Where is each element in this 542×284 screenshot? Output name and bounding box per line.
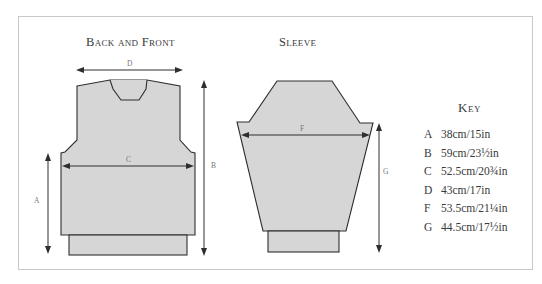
key-title: Key [458, 100, 534, 116]
d-arrowhead-right [175, 67, 183, 73]
key-row: F 53.5cm/21¼in [424, 199, 534, 218]
b-label: B [211, 161, 216, 170]
b-arrowhead-top [201, 80, 207, 88]
key-letter: F [424, 199, 441, 218]
back-front-title: Back and Front [86, 35, 175, 49]
d-label: D [127, 59, 133, 68]
d-arrowhead-left [76, 67, 84, 73]
key-value: 53.5cm/21¼in [441, 199, 507, 218]
sleeve-title: Sleeve [279, 35, 316, 49]
key-row: G 44.5cm/17½in [424, 218, 534, 237]
g-label: G [383, 167, 389, 176]
key-letter: C [424, 162, 441, 181]
key-value: 52.5cm/20¾in [441, 162, 507, 181]
c-label: C [126, 155, 131, 164]
measurement-key: Key A 38cm/15in B 59cm/23½in C 52.5cm/20… [424, 100, 534, 237]
back-front-ribbing [69, 235, 187, 255]
b-arrowhead-bottom [201, 248, 207, 256]
key-value: 44.5cm/17½in [441, 218, 507, 237]
key-letter: D [424, 181, 441, 200]
key-row: D 43cm/17in [424, 181, 534, 200]
a-label: A [34, 196, 40, 205]
sleeve-cuff [268, 231, 339, 252]
key-value: 43cm/17in [441, 181, 490, 200]
a-arrowhead-top [45, 153, 51, 161]
key-row: B 59cm/23½in [424, 144, 534, 163]
sleeve-body [237, 81, 373, 231]
key-value: 59cm/23½in [441, 144, 499, 163]
key-letter: B [424, 144, 441, 163]
a-arrowhead-bottom [45, 246, 51, 254]
f-label: F [300, 124, 304, 133]
key-value: 38cm/15in [441, 125, 490, 144]
key-letter: A [424, 125, 441, 144]
key-letter: G [424, 218, 441, 237]
key-row: A 38cm/15in [424, 125, 534, 144]
g-arrowhead-bottom [376, 245, 382, 253]
g-arrowhead-top [376, 123, 382, 131]
key-row: C 52.5cm/20¾in [424, 162, 534, 181]
